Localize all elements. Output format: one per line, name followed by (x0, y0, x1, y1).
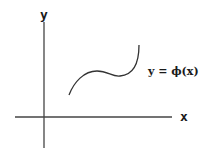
curve-equation-label: y = ϕ(x) (147, 65, 199, 78)
function-curve (69, 45, 139, 95)
function-graph: y x y = ϕ(x) (0, 0, 209, 154)
x-axis-label: x (180, 109, 188, 124)
y-axis-label: y (40, 7, 48, 22)
